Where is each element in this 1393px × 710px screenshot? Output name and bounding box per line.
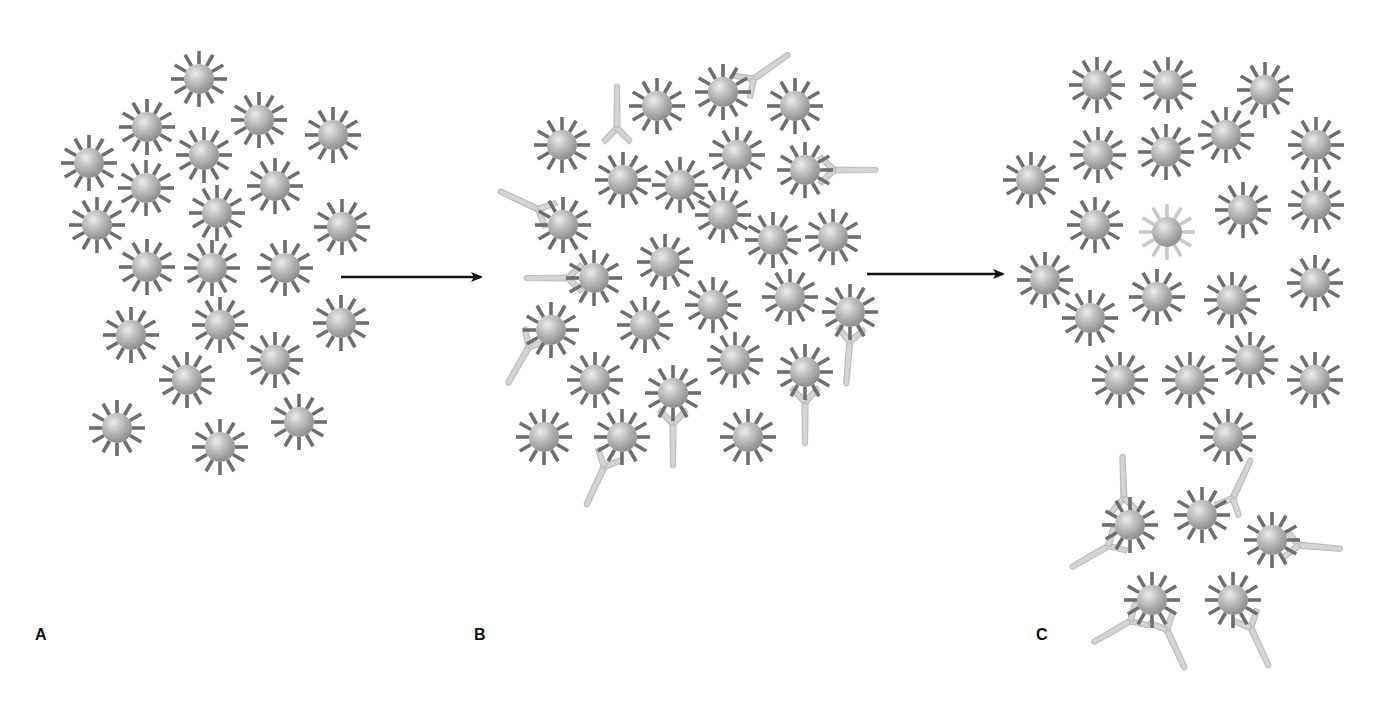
antigen-particle-a-14 [257, 240, 313, 296]
panel-label-c: C [1036, 626, 1048, 644]
antigen-particle-b-15 [685, 277, 741, 333]
antibody-c-1 [1107, 454, 1139, 515]
antigen-particle-b-11 [745, 212, 801, 268]
antigen-particle-a-13 [184, 240, 240, 296]
antigen-particle-c-13 [1062, 290, 1118, 346]
antigen-particle-b-8 [777, 142, 833, 198]
antigen-particle-c-9 [1067, 197, 1123, 253]
antigen-particle-a-7 [118, 160, 174, 216]
antibody-c-7 [1230, 607, 1283, 674]
antigen-particle-c-20 [1287, 352, 1343, 408]
antigen-particle-c-24 [1244, 512, 1300, 568]
antigen-particle-c-8 [1288, 117, 1344, 173]
antigen-particle-c-3 [1237, 62, 1293, 118]
antigen-particle-c-16 [1287, 255, 1343, 311]
antigen-particle-c-7 [1198, 107, 1254, 163]
antigen-particle-b-21 [777, 344, 833, 400]
antigen-particle-a-5 [61, 135, 117, 191]
antibody-b-10 [572, 446, 625, 513]
antigen-particle-a-16 [192, 297, 248, 353]
antigen-particle-b-19 [617, 297, 673, 353]
antigen-particle-b-13 [566, 250, 622, 306]
panel-label-b: B [474, 626, 486, 644]
antigen-particle-a-17 [313, 295, 369, 351]
antigen-particle-a-2 [119, 99, 175, 155]
antigen-particle-b-1 [534, 117, 590, 173]
antigen-particle-c-12 [1017, 252, 1073, 308]
antigen-particle-b-10 [695, 187, 751, 243]
antigen-particle-c-17 [1222, 332, 1278, 388]
antigen-particle-c-18 [1092, 352, 1148, 408]
faded-antigen-particle-c-1 [1139, 204, 1195, 260]
antigen-particle-c-4 [1003, 152, 1059, 208]
antigen-particle-b-17 [822, 284, 878, 340]
antigen-particle-b-12 [805, 209, 861, 265]
antigen-antibody-diagram [0, 0, 1393, 710]
antigen-particle-a-6 [176, 127, 232, 183]
antigen-particle-a-18 [247, 332, 303, 388]
antigen-particle-a-3 [231, 92, 287, 148]
antigen-particle-a-20 [89, 400, 145, 456]
antigen-particle-b-6 [652, 157, 708, 213]
antibody-c-6 [1146, 609, 1199, 676]
antigen-particle-c-15 [1204, 272, 1260, 328]
antigen-particle-c-5 [1070, 127, 1126, 183]
antigen-particle-c-10 [1215, 182, 1271, 238]
antigen-particle-c-14 [1129, 269, 1185, 325]
antigen-particle-a-10 [189, 185, 245, 241]
antigen-particle-c-11 [1288, 177, 1344, 233]
antigen-particle-b-14 [637, 234, 693, 290]
antigen-particle-a-9 [69, 197, 125, 253]
antibody-c-3 [1212, 452, 1265, 519]
antigen-particle-b-26 [720, 409, 776, 465]
antigen-particle-c-6 [1138, 124, 1194, 180]
antigen-particle-b-2 [629, 78, 685, 134]
antigen-particle-b-4 [767, 78, 823, 134]
antigen-particle-b-5 [595, 152, 651, 208]
antigen-particle-a-11 [314, 199, 370, 255]
antigen-particle-c-1 [1069, 57, 1125, 113]
antigen-particle-a-8 [247, 158, 303, 214]
antigen-particle-c-19 [1162, 352, 1218, 408]
antigen-particle-b-22 [567, 352, 623, 408]
antibody-b-1 [602, 84, 632, 144]
antigen-particle-a-22 [271, 394, 327, 450]
particles-layer [61, 51, 1344, 628]
antigen-particle-a-21 [192, 419, 248, 475]
antigen-particle-c-23 [1174, 487, 1230, 543]
antigen-particle-b-3 [695, 64, 751, 120]
antigen-particle-a-4 [305, 107, 361, 163]
antigen-particle-b-24 [516, 409, 572, 465]
panel-label-a: A [35, 626, 47, 644]
antigen-particle-c-2 [1140, 57, 1196, 113]
antibody-c-4 [1282, 529, 1344, 564]
antigen-particle-a-12 [119, 239, 175, 295]
antigen-particle-a-1 [171, 51, 227, 107]
antigen-particle-a-19 [159, 352, 215, 408]
antigen-particle-b-20 [707, 332, 763, 388]
antigen-particle-b-16 [762, 269, 818, 325]
antigen-particle-c-21 [1200, 409, 1256, 465]
antigen-particle-b-7 [709, 127, 765, 183]
antigen-particle-b-23 [645, 365, 701, 421]
antigen-particle-a-15 [103, 307, 159, 363]
